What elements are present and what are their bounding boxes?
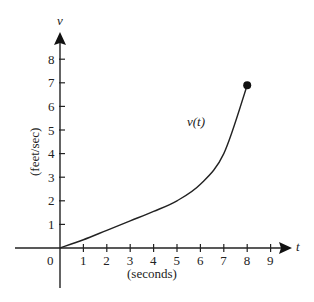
y-ticks: 12345678 xyxy=(48,52,65,232)
y-tick-label: 7 xyxy=(48,75,55,90)
x-axis-title: (seconds) xyxy=(127,266,177,281)
y-tick-label: 6 xyxy=(48,99,55,114)
x-tick-label: 8 xyxy=(244,253,251,268)
velocity-chart: 0123456789 12345678 v t v(t) (seconds) (… xyxy=(0,0,314,302)
x-tick-label: 6 xyxy=(197,253,204,268)
y-tick-label: 8 xyxy=(48,52,55,67)
x-tick-label: 7 xyxy=(220,253,227,268)
y-tick-label: 2 xyxy=(48,193,55,208)
x-tick-label: 0 xyxy=(47,253,54,268)
velocity-curve xyxy=(60,85,247,248)
x-tick-label: 1 xyxy=(80,253,87,268)
y-tick-label: 4 xyxy=(48,146,55,161)
endpoint-marker xyxy=(243,81,251,89)
x-axis-var-label: t xyxy=(296,239,300,254)
x-tick-label: 2 xyxy=(103,253,110,268)
y-axis-var-label: v xyxy=(57,13,63,28)
y-axis-title: (feet/sec) xyxy=(27,128,42,176)
curve-label: v(t) xyxy=(187,114,205,129)
y-tick-label: 3 xyxy=(48,170,55,185)
x-tick-label: 9 xyxy=(267,253,274,268)
y-tick-label: 1 xyxy=(48,217,55,232)
y-tick-label: 5 xyxy=(48,123,55,138)
